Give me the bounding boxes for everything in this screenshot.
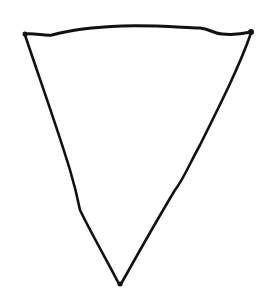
- top-right-vertex: [248, 29, 254, 35]
- triangle-top-edge: [25, 26, 251, 35]
- bottom-vertex: [118, 282, 123, 287]
- triangle-left-edge: [25, 35, 119, 284]
- drawing-canvas: [0, 0, 279, 295]
- triangle-right-edge: [121, 33, 251, 284]
- top-left-vertex: [23, 32, 28, 37]
- inverted-triangle-sketch: [0, 0, 279, 295]
